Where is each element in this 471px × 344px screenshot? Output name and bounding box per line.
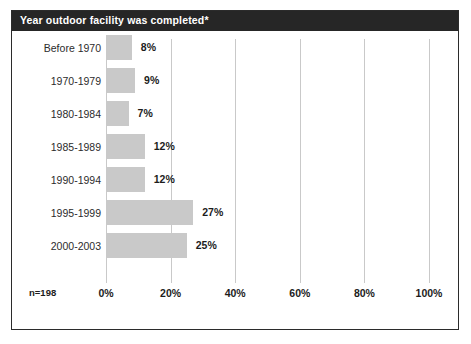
- category-label: Before 1970: [12, 42, 101, 54]
- category-label: 1990-1994: [12, 174, 101, 186]
- chart-card: Year outdoor facility was completed* Bef…: [11, 10, 459, 330]
- x-tick-label: 20%: [160, 287, 181, 299]
- bar-value-label: 8%: [141, 41, 156, 53]
- bar[interactable]: [106, 35, 132, 60]
- bar[interactable]: [106, 200, 193, 225]
- bar-track: 25%: [106, 233, 436, 258]
- category-label: 1980-1984: [12, 108, 101, 120]
- bar-row: 1970-19799%: [12, 64, 458, 97]
- bar-row: 1995-199927%: [12, 196, 458, 229]
- x-tick-label: 60%: [289, 287, 310, 299]
- bar-track: 7%: [106, 101, 436, 126]
- bar-row: 1985-198912%: [12, 130, 458, 163]
- bar-value-label: 27%: [202, 206, 223, 218]
- bar-track: 12%: [106, 134, 436, 159]
- chart-title-bar: Year outdoor facility was completed*: [12, 11, 458, 31]
- bar[interactable]: [106, 101, 129, 126]
- bar-row: 1990-199412%: [12, 163, 458, 196]
- category-label: 1985-1989: [12, 141, 101, 153]
- bar-track: 27%: [106, 200, 436, 225]
- bar-value-label: 12%: [154, 140, 175, 152]
- bar-rows: Before 19708%1970-19799%1980-19847%1985-…: [12, 31, 458, 262]
- bar-row: 2000-200325%: [12, 229, 458, 262]
- x-axis: 0%20%40%60%80%100%: [12, 283, 458, 307]
- x-tick-label: 100%: [416, 287, 443, 299]
- category-label: 1995-1999: [12, 207, 101, 219]
- bar-value-label: 9%: [144, 74, 159, 86]
- bar-track: 9%: [106, 68, 436, 93]
- bar-track: 8%: [106, 35, 436, 60]
- x-tick-label: 40%: [225, 287, 246, 299]
- category-label: 2000-2003: [12, 240, 101, 252]
- bar-row: 1980-19847%: [12, 97, 458, 130]
- bar[interactable]: [106, 233, 187, 258]
- bar-value-label: 25%: [196, 239, 217, 251]
- bar-track: 12%: [106, 167, 436, 192]
- bar[interactable]: [106, 134, 145, 159]
- bar-value-label: 7%: [138, 107, 153, 119]
- x-tick-label: 80%: [354, 287, 375, 299]
- bar-row: Before 19708%: [12, 31, 458, 64]
- bar-value-label: 12%: [154, 173, 175, 185]
- plot-area: Before 19708%1970-19799%1980-19847%1985-…: [12, 31, 458, 329]
- category-label: 1970-1979: [12, 75, 101, 87]
- bar[interactable]: [106, 167, 145, 192]
- x-tick-label: 0%: [98, 287, 113, 299]
- sample-size-label: n=198: [29, 287, 56, 298]
- bar[interactable]: [106, 68, 135, 93]
- chart-title: Year outdoor facility was completed*: [20, 14, 209, 26]
